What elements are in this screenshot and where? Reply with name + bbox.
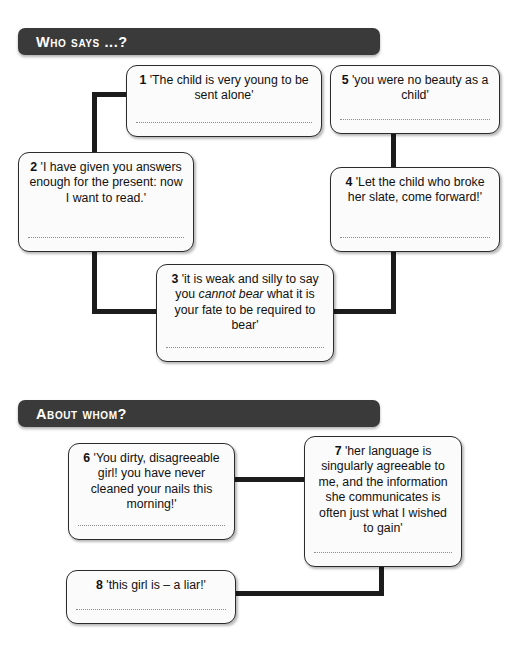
quote-number: 7 [335, 444, 342, 458]
answer-line[interactable] [314, 552, 452, 553]
quote-number: 6 [83, 451, 90, 465]
answer-line[interactable] [340, 119, 490, 120]
quote-text: 8 'this girl is – a liar!' [76, 578, 226, 593]
quote-text: 6 'You dirty, disagreeable girl! you hav… [78, 451, 225, 513]
section-header-who-says: Who says ...? [18, 28, 380, 55]
quote-body: 'you were no beauty as a child' [352, 73, 488, 102]
quote-number: 8 [96, 578, 103, 592]
answer-line[interactable] [340, 237, 490, 238]
quote-number: 4 [345, 175, 352, 189]
section-header-about-whom: About whom? [18, 400, 380, 427]
quote-text: 3 'it is weak and silly to say you canno… [166, 272, 324, 334]
connector-box6-to-box7 [235, 477, 304, 482]
quote-text: 2 'I have given you answers enough for t… [28, 160, 184, 206]
quote-number: 1 [139, 73, 146, 87]
connector-spine-to-box3 [92, 309, 157, 314]
quote-box-2[interactable]: 2 'I have given you answers enough for t… [18, 152, 194, 252]
quote-box-7[interactable]: 7 'her language is singularly agreeable … [304, 436, 462, 567]
quote-box-3[interactable]: 3 'it is weak and silly to say you canno… [156, 264, 334, 362]
answer-line[interactable] [78, 525, 225, 526]
answer-line[interactable] [76, 609, 226, 610]
quote-body-italic: cannot bear [199, 287, 264, 301]
answer-line[interactable] [166, 347, 324, 348]
quote-body: 'You dirty, disagreeable girl! you have … [91, 451, 220, 511]
connector-box5-to-box4 [391, 133, 396, 167]
quote-box-5[interactable]: 5 'you were no beauty as a child' [330, 65, 500, 134]
quote-body: 'I have given you answers enough for the… [29, 160, 182, 205]
quote-body: 'Let the child who broke her slate, come… [348, 175, 485, 204]
quote-text: 5 'you were no beauty as a child' [340, 73, 490, 104]
section-header-label: About whom? [18, 406, 127, 422]
connector-box4-to-box3 [333, 309, 396, 314]
quote-text: 1 'The child is very young to be sent al… [136, 73, 312, 104]
quote-text: 4 'Let the child who broke her slate, co… [340, 175, 490, 206]
section-header-label: Who says ...? [18, 34, 128, 50]
quote-box-1[interactable]: 1 'The child is very young to be sent al… [126, 65, 322, 137]
quote-box-4[interactable]: 4 'Let the child who broke her slate, co… [330, 167, 500, 252]
quote-box-6[interactable]: 6 'You dirty, disagreeable girl! you hav… [68, 443, 235, 540]
quote-text: 7 'her language is singularly agreeable … [314, 444, 452, 536]
quote-number: 5 [342, 73, 349, 87]
quote-body: 'The child is very young to be sent alon… [150, 73, 309, 102]
answer-line[interactable] [136, 122, 312, 123]
quote-box-8[interactable]: 8 'this girl is – a liar!' [66, 570, 236, 624]
connector-box4-down-vertical [391, 245, 396, 314]
quote-number: 3 [171, 272, 178, 286]
connector-box1-horizontal [92, 92, 126, 97]
quote-body: 'this girl is – a liar!' [106, 578, 206, 592]
answer-line[interactable] [28, 237, 184, 238]
quote-number: 2 [30, 160, 37, 174]
